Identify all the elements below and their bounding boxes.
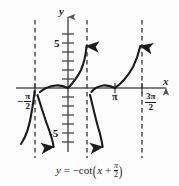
- fraction-denominator: 2: [24, 102, 31, 111]
- y-tick-label-neg5: -5: [49, 128, 58, 139]
- fraction-pi-glyph: π: [151, 92, 156, 101]
- fraction-denominator: 2: [145, 103, 156, 112]
- x-tick-label-neg-half-pi: − π 2: [17, 92, 31, 112]
- fraction-three-half-pi: 3π 2: [145, 92, 156, 112]
- curve-branches: [21, 46, 140, 150]
- caption-argument-variable: x: [97, 164, 102, 176]
- x-axis-label: x: [163, 76, 169, 87]
- caption-function: −cot: [73, 164, 93, 176]
- caption-equals: =: [64, 164, 70, 176]
- caption-fraction: π 2: [114, 162, 118, 180]
- curve-branch-left-lower: [38, 95, 54, 147]
- x-tick-label-pi: π: [112, 92, 117, 102]
- graph-figure: y x 5 -5 − π 2 π 3π 2 y = −cot(x + π 2 ): [0, 0, 179, 186]
- caption-fraction-denominator: 2: [114, 171, 118, 179]
- curve-branch-middle-lower: [90, 95, 103, 147]
- curve-branch-middle-upper: [115, 46, 140, 88]
- caption-close-paren: ): [119, 163, 123, 180]
- fraction-neg-half-pi: π 2: [24, 92, 31, 112]
- caption-lhs: y: [56, 164, 61, 176]
- y-axis-label: y: [59, 6, 64, 17]
- equation-caption: y = −cot(x + π 2 ): [0, 163, 179, 181]
- minus-sign-glyph: −: [17, 96, 23, 107]
- caption-open-paren: (: [93, 163, 97, 180]
- caption-plus: +: [105, 164, 111, 176]
- x-tick-label-three-half-pi: 3π 2: [145, 92, 156, 112]
- y-tick-label-5: 5: [54, 38, 60, 49]
